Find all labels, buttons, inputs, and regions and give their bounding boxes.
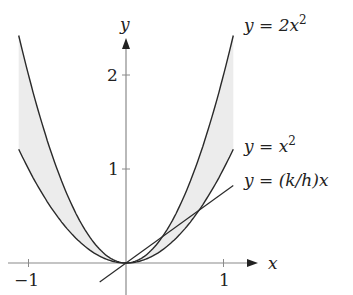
label-2x2-sup: 2 [299,13,307,27]
label-y-equals-x-squared: y = x2 [243,134,296,156]
label-x2-text: y = x [243,136,289,156]
label-y-equals-2x-squared: y = 2x2 [243,13,307,35]
tick-label-y-1: 1 [108,159,119,179]
axis-label-x: x [268,253,278,273]
label-2x2-text: y = 2x [243,15,299,35]
tick-label-x-neg1: −1 [14,270,39,290]
line-k-over-h-x [100,185,234,282]
tick-label-y-2: 2 [107,65,118,85]
label-y-equals-k-over-h-x: y = (k/h)x [243,170,329,190]
label-x2-sup: 2 [288,134,296,148]
tick-label-x-1: 1 [219,270,230,290]
x-axis-arrow-icon [247,259,258,267]
axis-label-y: y [119,14,130,34]
y-axis-arrow-icon [122,38,130,49]
parabola-region-diagram: −1 1 1 2 x y y = 2x2 y = x2 y = (k/h)x [0,0,353,295]
